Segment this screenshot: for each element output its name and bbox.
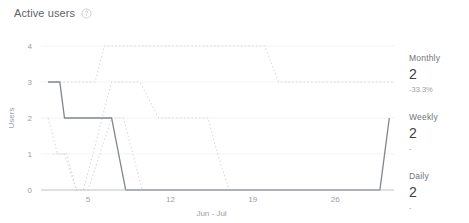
x-axis-tick-label: 12	[166, 195, 175, 204]
x-axis-tick-label: 19	[248, 195, 257, 204]
stat-value: 2	[409, 124, 469, 142]
help-circle-icon[interactable]	[81, 8, 92, 19]
stat-monthly: Monthly 2 -33.3%	[409, 52, 469, 95]
x-axis-title: Jun - Jul	[196, 209, 226, 218]
stat-label: Monthly	[409, 52, 469, 64]
stat-delta: -	[409, 143, 469, 154]
y-axis-title: Users	[7, 108, 16, 129]
y-axis-tick-label: 3	[28, 78, 33, 87]
active-users-card: Active users 012345121926Jun - JulUsers …	[0, 0, 469, 223]
y-axis-tick-label: 4	[28, 42, 33, 51]
stat-label: Weekly	[409, 111, 469, 123]
series-line-monthly	[48, 46, 394, 82]
y-axis-tick-label: 2	[28, 114, 33, 123]
stat-weekly: Weekly 2 -	[409, 111, 469, 154]
series-line-daily	[48, 82, 389, 190]
stat-value: 2	[409, 183, 469, 201]
stat-delta: -33.3%	[409, 84, 469, 95]
stat-daily: Daily 2 -	[409, 170, 469, 213]
active-users-chart: 012345121926Jun - JulUsers	[0, 28, 406, 223]
stat-value: 2	[409, 65, 469, 83]
x-axis-tick-label: 5	[86, 195, 91, 204]
series-line-weekly	[48, 82, 229, 190]
x-axis-tick-label: 26	[331, 195, 340, 204]
chart-canvas: 012345121926Jun - JulUsers	[0, 28, 406, 223]
summary-stats-panel: Monthly 2 -33.3% Weekly 2 - Daily 2 -	[409, 52, 469, 223]
page-title: Active users	[14, 6, 75, 20]
stat-delta: -	[409, 202, 469, 213]
card-header: Active users	[14, 6, 92, 20]
stat-label: Daily	[409, 170, 469, 182]
y-axis-tick-label: 0	[28, 186, 33, 195]
y-axis-tick-label: 1	[28, 150, 33, 159]
